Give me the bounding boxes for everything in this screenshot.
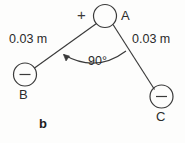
physics-charge-diagram: + A B C 0.03 m 0.03 m 90° b bbox=[0, 0, 185, 143]
charge-b-label: B bbox=[19, 88, 28, 101]
charge-a-label: A bbox=[121, 9, 130, 22]
angle-arrowhead-left bbox=[64, 55, 70, 62]
distance-label-ac: 0.03 m bbox=[132, 33, 170, 46]
charge-c-label: C bbox=[156, 110, 165, 123]
charge-a-plus-sign: + bbox=[77, 7, 86, 22]
charge-a-circle bbox=[94, 5, 117, 28]
part-label: b bbox=[39, 117, 47, 130]
distance-label-ab: 0.03 m bbox=[9, 33, 47, 46]
angle-label: 90° bbox=[88, 55, 107, 68]
